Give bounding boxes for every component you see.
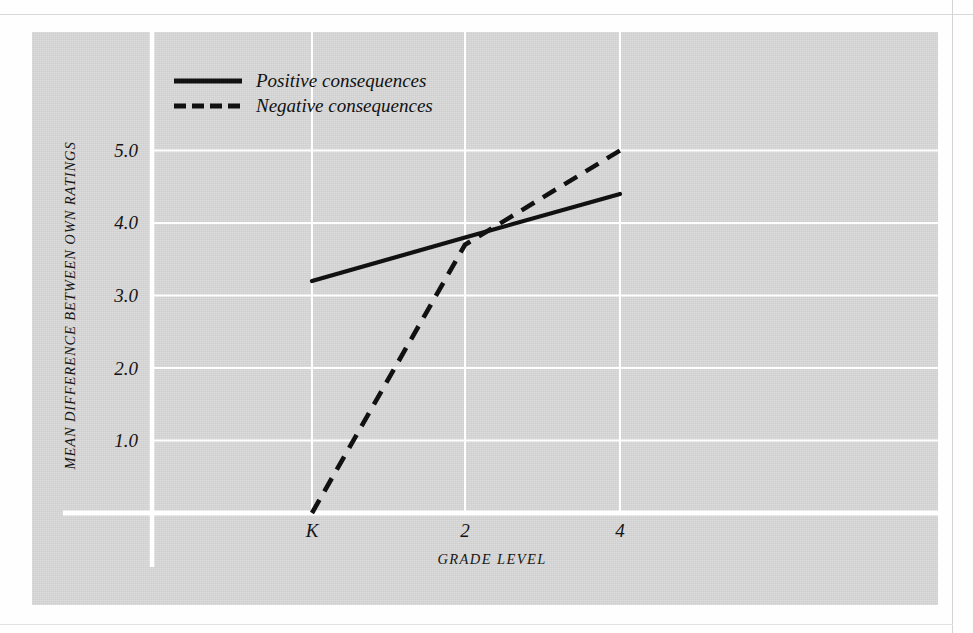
y-tick-label-4: 4.0 <box>78 212 138 234</box>
legend-item-negative-consequences: Negative consequences <box>172 93 433 118</box>
scanned-page: 5.0 4.0 3.0 2.0 1.0 K 2 4 MEAN DIFFERENC… <box>0 0 973 633</box>
legend-item-positive-consequences: Positive consequences <box>172 68 433 93</box>
legend-label-positive-consequences: Positive consequences <box>256 71 426 90</box>
chart-legend: Positive consequences Negative consequen… <box>172 68 433 118</box>
x-tick-label-k: K <box>292 520 332 542</box>
y-tick-label-1: 1.0 <box>78 430 138 452</box>
y-tick-label-2: 2.0 <box>78 358 138 380</box>
legend-swatch-solid-line <box>172 73 244 89</box>
legend-swatch-dashed-line <box>172 98 244 114</box>
scan-rule-bottom <box>0 624 953 625</box>
scan-rule-top <box>0 14 973 15</box>
x-tick-label-2: 2 <box>445 520 485 542</box>
scan-rule-right <box>952 0 953 633</box>
y-axis-title: MEAN DIFFERENCE BETWEEN OWN RATINGS <box>62 111 79 501</box>
y-tick-label-3: 3.0 <box>78 285 138 307</box>
x-tick-label-4: 4 <box>600 520 640 542</box>
figure-panel <box>32 32 938 605</box>
x-axis-title: GRADE LEVEL <box>332 551 652 568</box>
legend-label-negative-consequences: Negative consequences <box>256 96 433 115</box>
y-tick-label-5: 5.0 <box>78 140 138 162</box>
